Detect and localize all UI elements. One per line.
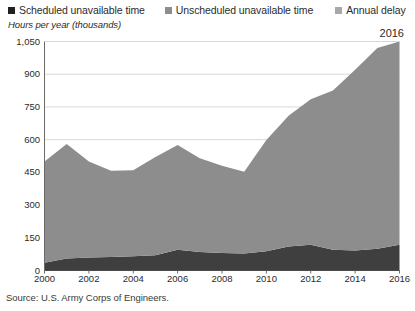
- x-tick-label: 2006: [158, 273, 198, 284]
- x-tick-label: 2016: [380, 273, 415, 284]
- y-axis-labels: 01503004506007509001,050: [0, 0, 40, 311]
- y-tick-label: 150: [0, 233, 40, 243]
- area-series-group: [45, 42, 400, 271]
- x-tick-label: 2014: [335, 273, 375, 284]
- x-tick-label: 2002: [69, 273, 109, 284]
- x-tick-label: 2004: [113, 273, 153, 284]
- y-tick-label: 450: [0, 167, 40, 177]
- x-axis-labels: 200020022004200620082010201220142016: [0, 273, 410, 287]
- x-tick-label: 2000: [25, 273, 65, 284]
- source-note: Source: U.S. Army Corps of Engineers.: [6, 292, 169, 303]
- y-tick-label: 900: [0, 69, 40, 79]
- y-tick-label: 1,050: [0, 37, 40, 47]
- x-tick-label: 2012: [291, 273, 331, 284]
- y-tick-label: 750: [0, 102, 40, 112]
- y-tick-label: 300: [0, 200, 40, 210]
- x-tick-label: 2008: [202, 273, 242, 284]
- x-tick-label: 2010: [246, 273, 286, 284]
- y-tick-label: 600: [0, 135, 40, 145]
